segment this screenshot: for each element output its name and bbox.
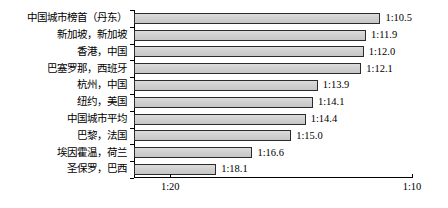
bar-row: 1:14.1 (134, 94, 412, 111)
y-axis-tick (130, 144, 134, 145)
y-axis-tick (130, 60, 134, 61)
x-axis-tick-label: 1:20 (161, 182, 180, 193)
y-axis-tick (130, 44, 134, 45)
bar-value-label: 1:16.6 (257, 148, 284, 159)
y-axis-tick (130, 77, 134, 78)
y-axis-tick (130, 161, 134, 162)
bar-value-label: 1:12.0 (369, 47, 396, 58)
bars-container: 1:10.51:11.91:12.01:12.11:13.91:14.11:14… (134, 10, 412, 178)
bar-value-label: 1:14.1 (318, 97, 345, 108)
x-axis-tick (170, 174, 171, 178)
bar-value-label: 1:13.9 (323, 80, 350, 91)
y-axis-tick (130, 111, 134, 112)
category-label: 埃因霍温，荷兰 (0, 144, 131, 161)
x-axis-tick-label: 1:10 (403, 182, 422, 193)
bar (134, 13, 380, 24)
category-axis-labels: 中国城市榜首（丹东）新加坡，新加坡香港，中国巴塞罗那，西班牙杭州，中国纽约，美国… (0, 10, 131, 178)
bar-value-label: 1:12.1 (366, 64, 393, 75)
bar (134, 63, 361, 74)
x-axis-tick (412, 174, 413, 178)
bar-value-label: 1:15.0 (296, 131, 323, 142)
y-axis-tick (130, 10, 134, 11)
bar (134, 80, 318, 91)
bar-row: 1:12.0 (134, 44, 412, 61)
bar-row: 1:16.6 (134, 144, 412, 161)
bar-row: 1:13.9 (134, 77, 412, 94)
bar-value-label: 1:11.9 (371, 30, 397, 41)
category-label: 新加坡，新加坡 (0, 27, 131, 44)
bar (134, 147, 252, 158)
y-axis-tick (130, 27, 134, 28)
bar (134, 30, 366, 41)
bar-row: 1:15.0 (134, 128, 412, 145)
category-label: 中国城市榜首（丹东） (0, 10, 131, 27)
bar (134, 46, 364, 57)
plot-area: 1:10.51:11.91:12.01:12.11:13.91:14.11:14… (134, 10, 412, 178)
category-label: 中国城市平均 (0, 111, 131, 128)
bar (134, 114, 306, 125)
bar-value-label: 1:10.5 (385, 13, 412, 24)
category-label: 巴塞罗那，西班牙 (0, 60, 131, 77)
bar-chart: 中国城市榜首（丹东）新加坡，新加坡香港，中国巴塞罗那，西班牙杭州，中国纽约，美国… (0, 0, 448, 208)
y-axis-tick (130, 94, 134, 95)
category-label: 巴黎，法国 (0, 128, 131, 145)
bar (134, 130, 291, 141)
bar-row: 1:18.1 (134, 161, 412, 178)
category-label: 杭州，中国 (0, 77, 131, 94)
bar (134, 97, 313, 108)
y-axis-tick (130, 178, 134, 179)
y-axis-tick (130, 128, 134, 129)
bar-row: 1:12.1 (134, 60, 412, 77)
bar-row: 1:14.4 (134, 111, 412, 128)
category-label: 香港，中国 (0, 44, 131, 61)
bar-row: 1:11.9 (134, 27, 412, 44)
category-label: 纽约，美国 (0, 94, 131, 111)
bar-value-label: 1:14.4 (311, 114, 338, 125)
category-label: 圣保罗，巴西 (0, 161, 131, 178)
bar-value-label: 1:18.1 (221, 164, 248, 175)
bar (134, 164, 216, 175)
bar-row: 1:10.5 (134, 10, 412, 27)
